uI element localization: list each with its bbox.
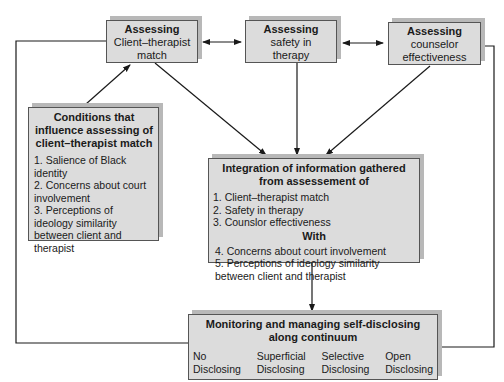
conditions-item: 2. Concerns about court involvement: [34, 179, 154, 204]
monitoring-title: Monitoring and managing self-disclosing …: [193, 318, 433, 344]
integration-item: 2. Safety in therapy: [213, 204, 415, 217]
monitoring-box: Monitoring and managing self-disclosing …: [188, 314, 438, 380]
integration-item: 1. Client–therapist match: [213, 191, 415, 204]
assess-client-therapist-match-box: Assessing Client–therapist match: [106, 20, 198, 63]
stage-label: Disclosing: [193, 363, 241, 376]
stage-label: Selective: [321, 350, 369, 363]
box-title: Assessing: [389, 25, 480, 38]
integration-title: Integration of information gathered from…: [213, 162, 415, 188]
integration-with-item: 5. Perceptions of ideology similarity be…: [213, 257, 415, 282]
conditions-title: Conditions that influence assessing of c…: [34, 111, 154, 150]
conditions-item: 3. Perceptions of ideology similarity be…: [34, 204, 154, 254]
stage-label: Disclosing: [257, 363, 306, 376]
stage-label: Disclosing: [321, 363, 369, 376]
box-text: safety in: [246, 36, 336, 49]
integration-box: Integration of information gathered from…: [208, 158, 420, 263]
integration-item: 3. Counslor effectiveness: [213, 216, 415, 229]
continuum-stage-superficial: Superficial Disclosing: [257, 350, 306, 375]
stage-label: Open: [385, 350, 433, 363]
box-title: Assessing: [246, 23, 336, 36]
assess-safety-box: Assessing safety in therapy: [245, 20, 337, 63]
box-text: match: [107, 49, 197, 62]
arrow-c-to-integration: [326, 66, 430, 155]
continuum-stage-no: No Disclosing: [193, 350, 241, 375]
box-text: Client–therapist: [107, 36, 197, 49]
stage-label: Superficial: [257, 350, 306, 363]
arrow-a-to-integration: [155, 63, 266, 155]
box-text: counselor: [389, 38, 480, 51]
box-text: therapy: [246, 49, 336, 62]
continuum-stage-selective: Selective Disclosing: [321, 350, 369, 375]
box-title: Assessing: [107, 23, 197, 36]
with-label: With: [213, 230, 415, 243]
conditions-box: Conditions that influence assessing of c…: [28, 107, 159, 241]
box-text: effectiveness: [389, 51, 480, 64]
assess-counselor-effectiveness-box: Assessing counselor effectiveness: [388, 22, 481, 65]
feedback-loop-right: [438, 46, 494, 347]
arrow-conditions-to-a: [86, 65, 130, 104]
stage-label: No: [193, 350, 241, 363]
disclosure-continuum: No Disclosing Superficial Disclosing Sel…: [193, 350, 433, 375]
stage-label: Disclosing: [385, 363, 433, 376]
continuum-stage-open: Open Disclosing: [385, 350, 433, 375]
conditions-item: 1. Salience of Black identity: [34, 154, 154, 179]
integration-with-item: 4. Concerns about court involvement: [213, 245, 415, 258]
diagram-canvas: Assessing Client–therapist match Assessi…: [0, 0, 504, 382]
